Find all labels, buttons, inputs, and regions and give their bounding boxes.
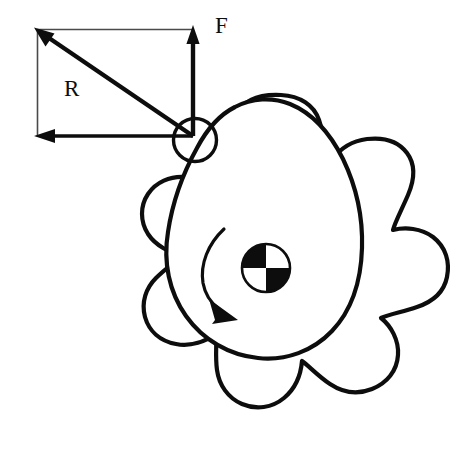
quartered-hub [242, 244, 290, 292]
horizontal-component-vector [34, 129, 193, 143]
force-vector-arrowhead [186, 25, 199, 44]
force-label: F [215, 13, 228, 38]
diagram-canvas: F R [0, 0, 454, 468]
radius-label: R [64, 76, 80, 101]
radius-vector-R [34, 28, 193, 137]
cam-inner-profile [166, 99, 362, 358]
mechanics-diagram: F R [0, 0, 454, 468]
